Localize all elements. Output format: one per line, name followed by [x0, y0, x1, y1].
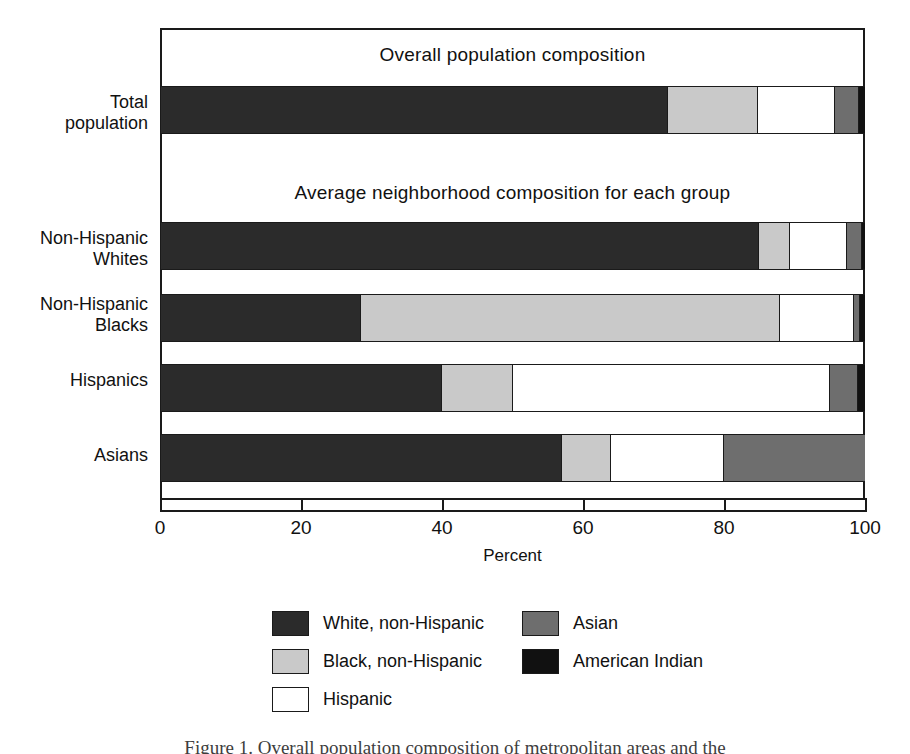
- x-axis-title: Percent: [160, 546, 865, 566]
- bar-segment-asian: [835, 86, 859, 134]
- legend-item-american-indian: American Indian: [522, 649, 752, 674]
- bar-segment-hispanic: [513, 364, 830, 412]
- bar-segment-hispanic: [790, 222, 846, 270]
- legend-swatch-black-non-hispanic: [272, 649, 309, 674]
- bar-segment-white-non-hispanic: [160, 86, 668, 134]
- chart-legend: White, non-HispanicAsianBlack, non-Hispa…: [272, 604, 752, 718]
- x-tick-label-60: 60: [572, 517, 593, 539]
- bar-segment-white-non-hispanic: [160, 222, 759, 270]
- category-label-line: Non-Hispanic: [0, 228, 148, 249]
- bar-segment-black-non-hispanic: [759, 222, 790, 270]
- bar-segment-hispanic: [611, 434, 724, 482]
- category-label-line: population: [0, 113, 148, 134]
- bar-segment-black-non-hispanic: [668, 86, 758, 134]
- bar-hispanics: [160, 364, 865, 412]
- x-tick-60: [583, 498, 585, 512]
- legend-item-black-non-hispanic: Black, non-Hispanic: [272, 649, 522, 674]
- category-label-line: Non-Hispanic: [0, 294, 148, 315]
- category-label-line: Asians: [0, 445, 148, 466]
- panel-title-overall: Overall population composition: [160, 44, 865, 66]
- bar-segment-black-non-hispanic: [562, 434, 611, 482]
- legend-swatch-asian: [522, 611, 559, 636]
- legend-item-hispanic: Hispanic: [272, 687, 522, 712]
- legend-swatch-american-indian: [522, 649, 559, 674]
- bar-asians: [160, 434, 865, 482]
- x-tick-label-100: 100: [849, 517, 881, 539]
- x-tick-20: [301, 498, 303, 512]
- bar-segment-american-indian: [860, 294, 865, 342]
- x-tick-0: [160, 498, 162, 512]
- legend-label-asian: Asian: [573, 613, 618, 634]
- category-label-line: Total: [0, 92, 148, 113]
- bar-segment-white-non-hispanic: [160, 294, 361, 342]
- category-label-line: Whites: [0, 249, 148, 270]
- x-tick-label-20: 20: [290, 517, 311, 539]
- bar-segment-asian: [830, 364, 858, 412]
- legend-item-white-non-hispanic: White, non-Hispanic: [272, 611, 522, 636]
- category-label-total-population: Total population: [0, 92, 148, 134]
- figure-caption: Figure 1. Overall population composition…: [0, 737, 910, 754]
- legend-swatch-hispanic: [272, 687, 309, 712]
- bar-segment-white-non-hispanic: [160, 434, 562, 482]
- legend-swatch-white-non-hispanic: [272, 611, 309, 636]
- legend-item-asian: Asian: [522, 611, 752, 636]
- bar-segment-hispanic: [758, 86, 836, 134]
- bar-segment-white-non-hispanic: [160, 364, 442, 412]
- bar-total-population: [160, 86, 865, 134]
- bar-segment-american-indian: [858, 364, 865, 412]
- bar-segment-hispanic: [780, 294, 854, 342]
- bar-segment-asian: [724, 434, 865, 482]
- category-label-line: Hispanics: [0, 370, 148, 391]
- category-label-asians: Asians: [0, 445, 148, 466]
- category-label-hispanics: Hispanics: [0, 370, 148, 391]
- x-tick-100: [865, 498, 867, 512]
- legend-label-american-indian: American Indian: [573, 651, 703, 672]
- bar-non-hispanic-blacks: [160, 294, 865, 342]
- bar-segment-black-non-hispanic: [442, 364, 513, 412]
- x-tick-label-0: 0: [155, 517, 166, 539]
- panel-title-average: Average neighborhood composition for eac…: [160, 182, 865, 204]
- legend-label-hispanic: Hispanic: [323, 689, 392, 710]
- bar-segment-asian: [847, 222, 863, 270]
- bar-non-hispanic-whites: [160, 222, 865, 270]
- legend-label-white-non-hispanic: White, non-Hispanic: [323, 613, 484, 634]
- x-tick-label-80: 80: [713, 517, 734, 539]
- x-tick-40: [442, 498, 444, 512]
- x-tick-80: [724, 498, 726, 512]
- bar-segment-black-non-hispanic: [361, 294, 780, 342]
- category-label-line: Blacks: [0, 315, 148, 336]
- x-tick-label-40: 40: [431, 517, 452, 539]
- x-axis-line: [160, 510, 866, 512]
- legend-label-black-non-hispanic: Black, non-Hispanic: [323, 651, 482, 672]
- bar-segment-american-indian: [859, 86, 865, 134]
- bar-segment-american-indian: [862, 222, 865, 270]
- chart-figure: Overall population composition Average n…: [0, 0, 910, 754]
- category-label-non-hispanic-whites: Non-Hispanic Whites: [0, 228, 148, 270]
- category-label-non-hispanic-blacks: Non-Hispanic Blacks: [0, 294, 148, 336]
